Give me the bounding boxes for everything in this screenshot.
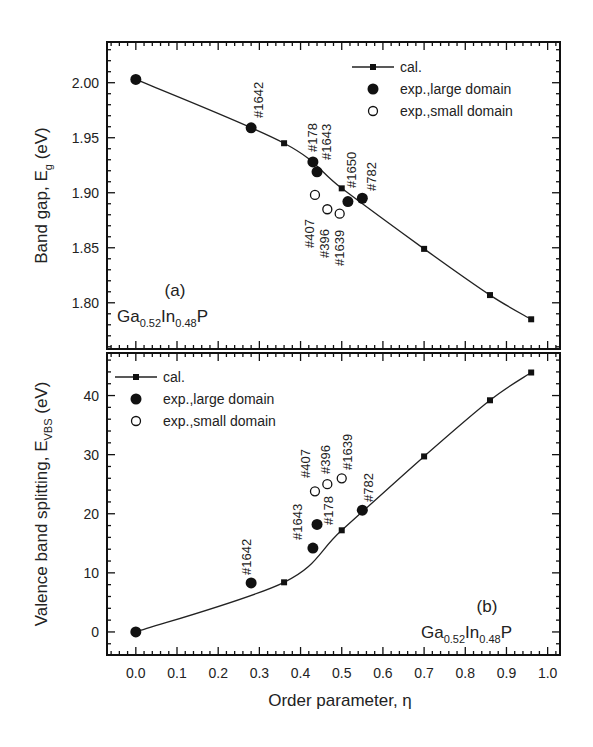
- x-tick-label: 0.9: [497, 665, 517, 681]
- sample-label: #1639: [332, 230, 347, 266]
- cal-square-marker: [421, 246, 427, 252]
- small-domain-point: [337, 474, 346, 483]
- cal-square-marker: [487, 397, 493, 403]
- legend-square-icon: [370, 64, 376, 70]
- sample-label: #396: [317, 229, 332, 258]
- material-formula: Ga0.52In0.48P: [117, 307, 208, 329]
- sample-label: #178: [305, 123, 320, 152]
- sample-label: #1643: [319, 124, 334, 160]
- y-axis-label: Valence band splitting, EVBS (eV): [32, 382, 54, 627]
- large-domain-point: [307, 543, 318, 554]
- large-domain-point: [246, 577, 257, 588]
- cal-square-marker: [487, 292, 493, 298]
- small-domain-point: [310, 487, 319, 496]
- y-axis-label: Band gap, Eg (eV): [32, 127, 54, 264]
- y-tick-label: 10: [83, 565, 99, 581]
- x-tick-label: 0.3: [250, 665, 270, 681]
- small-domain-point: [323, 205, 332, 214]
- x-axis-label: Order parameter, η: [268, 691, 412, 710]
- figure: 1.801.851.901.952.00Band gap, Eg (eV)cal…: [0, 0, 593, 747]
- sample-label: #782: [361, 473, 376, 502]
- y-tick-label: 2.00: [72, 75, 99, 91]
- sample-label: #1642: [239, 539, 254, 575]
- x-tick-label: 0.8: [456, 665, 476, 681]
- legend-label-large: exp.,large domain: [163, 391, 274, 407]
- sample-label: #782: [364, 162, 379, 191]
- sample-label: #1642: [251, 82, 266, 118]
- cal-square-marker: [281, 140, 287, 146]
- legend-label-large: exp.,large domain: [400, 81, 511, 97]
- y-tick-label: 0: [91, 624, 99, 640]
- cal-square-marker: [528, 370, 534, 376]
- legend-open-circle-icon: [132, 417, 141, 426]
- legend-open-circle-icon: [369, 107, 378, 116]
- x-tick-label: 0.7: [414, 665, 434, 681]
- sample-label: #407: [298, 449, 313, 478]
- cal-square-marker: [281, 579, 287, 585]
- sample-label: #1639: [340, 434, 355, 470]
- small-domain-point: [310, 190, 319, 199]
- legend-square-icon: [133, 374, 139, 380]
- panel-label: (b): [477, 597, 498, 616]
- sample-label: #1643: [290, 504, 305, 540]
- y-tick-label: 1.80: [72, 295, 99, 311]
- legend-label-small: exp.,small domain: [400, 103, 513, 119]
- sample-label: #1650: [344, 152, 359, 188]
- small-domain-point: [335, 209, 344, 218]
- large-domain-point: [307, 156, 318, 167]
- x-tick-label: 0.2: [208, 665, 228, 681]
- legend-filled-circle-icon: [131, 394, 142, 405]
- y-tick-label: 30: [83, 447, 99, 463]
- large-domain-point: [246, 122, 257, 133]
- legend-label-small: exp.,small domain: [163, 413, 276, 429]
- sample-label: #396: [318, 445, 333, 474]
- small-domain-point: [323, 480, 332, 489]
- y-tick-label: 1.90: [72, 185, 99, 201]
- large-domain-point: [357, 505, 368, 516]
- x-tick-label: 0.4: [291, 665, 311, 681]
- y-tick-label: 40: [83, 388, 99, 404]
- sample-label: #178: [321, 496, 336, 525]
- large-domain-point: [130, 74, 141, 85]
- x-tick-label: 0.0: [126, 665, 146, 681]
- x-tick-label: 1.0: [538, 665, 558, 681]
- panel-label: (a): [165, 281, 186, 300]
- y-tick-label: 1.95: [72, 130, 99, 146]
- large-domain-point: [312, 166, 323, 177]
- panel-b-valence-band-splitting: 010203040Valence band splitting, EVBS (e…: [32, 353, 560, 655]
- large-domain-point: [130, 626, 141, 637]
- x-tick-label: 0.1: [167, 665, 187, 681]
- sample-label: #407: [302, 219, 317, 248]
- panel-a-band-gap: 1.801.851.901.952.00Band gap, Eg (eV)cal…: [32, 42, 560, 349]
- y-tick-label: 20: [83, 506, 99, 522]
- y-tick-label: 1.85: [72, 240, 99, 256]
- x-tick-label: 0.5: [332, 665, 352, 681]
- cal-square-marker: [528, 316, 534, 322]
- legend-label-cal: cal.: [163, 369, 185, 385]
- large-domain-point: [357, 193, 368, 204]
- cal-square-marker: [421, 453, 427, 459]
- cal-square-marker: [339, 527, 345, 533]
- legend-filled-circle-icon: [368, 84, 379, 95]
- material-formula: Ga0.52In0.48P: [421, 623, 512, 645]
- large-domain-point: [342, 196, 353, 207]
- shared-x-axis: 0.00.10.20.30.40.50.60.70.80.91.0Order p…: [126, 665, 557, 710]
- legend-label-cal: cal.: [400, 59, 422, 75]
- x-tick-label: 0.6: [373, 665, 393, 681]
